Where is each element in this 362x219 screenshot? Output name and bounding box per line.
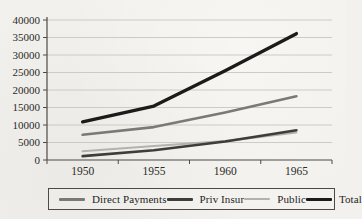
- chart-legend: Direct Payments Priv Insur Public Total: [48, 188, 335, 210]
- y-axis-tick-label: 5000: [18, 136, 41, 148]
- line-chart: 0500010000150002000025000300003500040000…: [0, 0, 346, 184]
- y-axis-tick-label: 15000: [13, 101, 41, 113]
- legend-label-direct-payments: Direct Payments: [92, 193, 167, 205]
- x-axis-tick-label: 1950: [71, 165, 94, 177]
- y-axis-tick-label: 10000: [13, 119, 41, 131]
- chart-plot-area: 0500010000150002000025000300003500040000…: [0, 0, 346, 184]
- y-axis-tick-label: 30000: [13, 49, 41, 61]
- legend-label-priv-insur: Priv Insur: [200, 193, 245, 205]
- legend-line-swatch-priv-insur: [167, 198, 193, 201]
- y-axis-tick-label: 20000: [13, 84, 41, 96]
- legend-label-public: Public: [277, 193, 306, 205]
- legend-item-direct-payments: Direct Payments: [59, 193, 167, 205]
- x-axis-tick-label: 1955: [142, 165, 165, 177]
- legend-line-swatch-direct-payments: [59, 198, 85, 201]
- y-axis-tick-label: 40000: [13, 14, 41, 26]
- legend-item-priv-insur: Priv Insur: [167, 193, 245, 205]
- legend-line-swatch-total: [306, 198, 332, 201]
- legend-line-swatch-public: [244, 198, 270, 200]
- legend-item-public: Public: [244, 193, 306, 205]
- series-line-total: [83, 34, 297, 122]
- x-axis-tick-label: 1965: [285, 165, 308, 177]
- y-axis-tick-label: 25000: [13, 66, 41, 78]
- y-axis-tick-label: 0: [35, 154, 41, 166]
- x-axis-tick-label: 1960: [214, 165, 237, 177]
- legend-item-total: Total: [306, 193, 362, 205]
- y-axis-tick-label: 35000: [13, 31, 41, 43]
- legend-label-total: Total: [339, 193, 362, 205]
